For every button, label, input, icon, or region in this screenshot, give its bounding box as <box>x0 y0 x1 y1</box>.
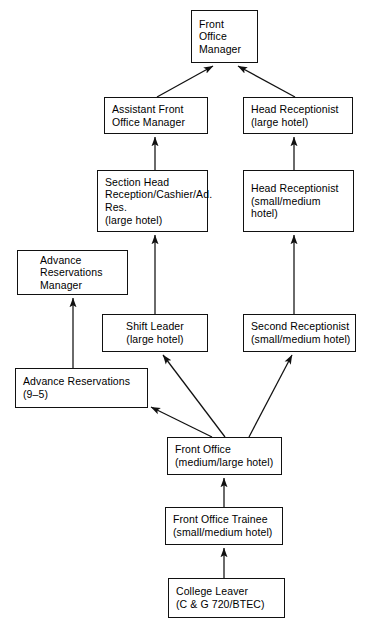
node-front-office-manager[interactable]: Front Office Manager <box>191 10 258 63</box>
connector-front-office-to-shift-leader <box>163 355 225 437</box>
connector-assistant-to-manager <box>157 66 213 97</box>
node-label: Front Office Trainee (small/medium hotel… <box>173 513 278 538</box>
node-front-office[interactable]: Front Office (medium/large hotel) <box>167 437 282 475</box>
node-label: Section Head Reception/Cashier/Ad. Res. … <box>105 176 203 226</box>
connector-front-office-to-second-rec <box>249 355 292 437</box>
node-label: Advance Reservations (9–5) <box>23 375 143 400</box>
node-label: Advance Reservations Manager <box>40 254 123 292</box>
node-head-receptionist-large[interactable]: Head Receptionist (large hotel) <box>243 97 353 134</box>
node-advance-reservations[interactable]: Advance Reservations (9–5) <box>15 368 148 408</box>
node-label: Second Receptionist (small/medium hotel) <box>251 320 351 345</box>
node-head-receptionist-small-medium[interactable]: Head Receptionist (small/medium hotel) <box>243 170 354 232</box>
org-chart-diagram: Front Office ManagerAssistant Front Offi… <box>0 0 366 635</box>
node-label: Shift Leader (large hotel) <box>107 320 203 345</box>
node-label: Head Receptionist (large hotel) <box>251 103 348 128</box>
node-college-leaver[interactable]: College Leaver (C & G 720/BTEC) <box>168 578 285 618</box>
node-assistant-front-office-manager[interactable]: Assistant Front Office Manager <box>104 97 208 134</box>
node-front-office-trainee[interactable]: Front Office Trainee (small/medium hotel… <box>165 507 283 545</box>
node-label: Front Office (medium/large hotel) <box>175 443 277 468</box>
connector-head-receptionist-to-manager <box>238 66 295 97</box>
connector-front-office-to-adv-res <box>151 407 212 437</box>
node-section-head-reception[interactable]: Section Head Reception/Cashier/Ad. Res. … <box>97 170 208 232</box>
node-advance-reservations-manager[interactable]: Advance Reservations Manager <box>17 250 128 295</box>
node-label: Assistant Front Office Manager <box>112 103 203 128</box>
node-label: Head Receptionist (small/medium hotel) <box>251 182 349 220</box>
node-shift-leader[interactable]: Shift Leader (large hotel) <box>102 314 208 352</box>
node-label: College Leaver (C & G 720/BTEC) <box>176 585 280 610</box>
node-label: Front Office Manager <box>199 18 253 56</box>
node-second-receptionist[interactable]: Second Receptionist (small/medium hotel) <box>243 314 356 352</box>
